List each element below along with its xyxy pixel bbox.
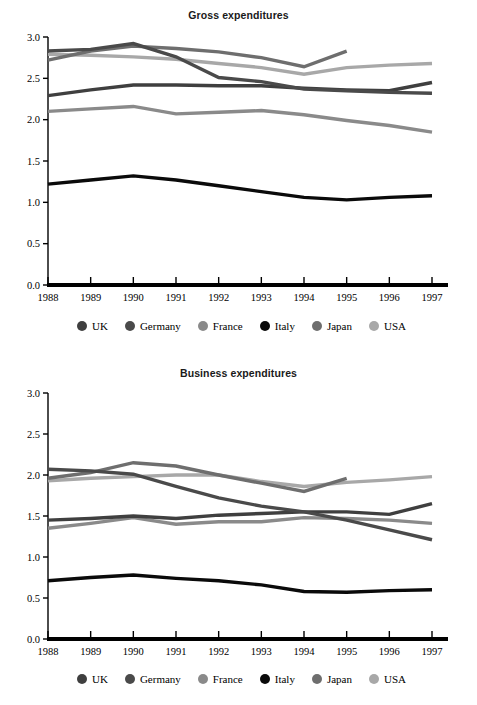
legend-item-germany[interactable]: Germany [125,674,181,685]
x-axis-tick-label: 1995 [336,646,357,657]
plot-area-business: 0.00.51.01.52.02.53.01988198919901991199… [0,381,477,666]
x-axis-tick-label: 1992 [208,646,229,657]
x-axis-tick-label: 1997 [422,292,443,303]
x-axis-tick-label: 1991 [166,646,187,657]
x-axis-tick-label: 1993 [251,646,272,657]
legend-dot-france [198,321,208,331]
series-line-italy [48,176,432,200]
legend-item-france[interactable]: France [198,674,243,685]
legend-item-japan[interactable]: Japan [312,321,352,332]
y-axis-tick-label: 2.0 [27,470,40,481]
legend-dot-germany [125,674,135,684]
legend-item-usa[interactable]: USA [369,321,406,332]
x-axis-tick-label: 1991 [166,292,187,303]
legend-item-france[interactable]: France [198,321,243,332]
y-axis-tick-label: 2.5 [27,429,40,440]
x-axis-tick-label: 1988 [38,646,59,657]
legend-label-france: France [213,674,243,685]
legend-label-germany: Germany [140,674,181,685]
chart-panel-gross: Gross expenditures 0.00.51.01.52.02.53.0… [0,0,477,358]
legend-label-usa: USA [384,321,406,332]
legend-dot-japan [312,321,322,331]
series-line-usa [48,54,432,74]
legend-label-italy: Italy [275,674,295,685]
x-axis-tick-label: 1993 [251,292,272,303]
x-axis-tick-label: 1996 [379,292,400,303]
legend-label-usa: USA [384,674,406,685]
legend-item-uk[interactable]: UK [77,674,108,685]
legend-dot-japan [312,674,322,684]
legend-label-italy: Italy [275,321,295,332]
legend-gross: UK Germany France Italy Japan USA [0,313,477,339]
series-line-uk [48,504,432,520]
y-axis-tick-label: 0.5 [27,593,40,604]
x-axis-tick-label: 1996 [379,646,400,657]
line-chart-business: 0.00.51.01.52.02.53.01988198919901991199… [0,381,477,666]
y-axis-tick-label: 1.0 [27,197,40,208]
x-axis-tick-label: 1994 [294,646,316,657]
legend-item-japan[interactable]: Japan [312,674,352,685]
legend-dot-italy [260,674,270,684]
x-axis-tick-label: 1995 [336,292,357,303]
y-axis-tick-label: 2.0 [27,114,40,125]
line-chart-gross: 0.00.51.01.52.02.53.01988198919901991199… [0,23,477,313]
x-axis-tick-label: 1988 [38,292,59,303]
x-axis-tick-label: 1994 [294,292,316,303]
x-axis-tick-label: 1989 [80,292,101,303]
legend-dot-france [198,674,208,684]
series-line-italy [48,575,432,592]
y-axis-tick-label: 1.5 [27,511,40,522]
y-axis-tick-label: 0.0 [27,280,40,291]
x-axis-tick-label: 1992 [208,292,229,303]
y-axis-tick-label: 2.5 [27,73,40,84]
y-axis-tick-label: 3.0 [27,32,40,43]
x-axis-tick-label: 1990 [123,292,144,303]
y-axis-tick-label: 1.0 [27,552,40,563]
chart-panel-business: Business expenditures 0.00.51.01.52.02.5… [0,358,477,705]
legend-item-italy[interactable]: Italy [260,321,295,332]
chart-title-gross: Gross expenditures [0,0,477,23]
legend-label-japan: Japan [327,674,352,685]
series-line-uk [48,82,432,95]
chart-title-business: Business expenditures [0,358,477,381]
x-axis-tick-label: 1989 [80,646,101,657]
legend-label-uk: UK [92,674,108,685]
figure-root: Gross expenditures 0.00.51.01.52.02.53.0… [0,0,477,705]
legend-label-japan: Japan [327,321,352,332]
x-axis-tick-label: 1990 [123,646,144,657]
legend-dot-uk [77,674,87,684]
y-axis-tick-label: 1.5 [27,156,40,167]
legend-label-germany: Germany [140,321,181,332]
legend-dot-germany [125,321,135,331]
y-axis-tick-label: 3.0 [27,388,40,399]
legend-item-germany[interactable]: Germany [125,321,181,332]
y-axis-tick-label: 0.5 [27,238,40,249]
legend-label-france: France [213,321,243,332]
y-axis-tick-label: 0.0 [27,634,40,645]
legend-dot-italy [260,321,270,331]
series-line-france [48,106,432,132]
legend-business: UK Germany France Italy Japan USA [0,666,477,692]
legend-dot-usa [369,674,379,684]
legend-dot-usa [369,321,379,331]
legend-item-usa[interactable]: USA [369,674,406,685]
legend-item-uk[interactable]: UK [77,321,108,332]
x-axis-tick-label: 1997 [422,646,443,657]
legend-label-uk: UK [92,321,108,332]
legend-dot-uk [77,321,87,331]
legend-item-italy[interactable]: Italy [260,674,295,685]
plot-area-gross: 0.00.51.01.52.02.53.01988198919901991199… [0,23,477,313]
